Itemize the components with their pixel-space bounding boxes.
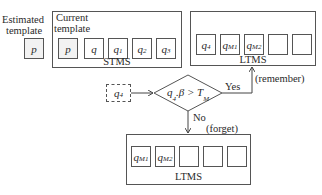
ltms-bottom-cell-2 [179, 146, 199, 167]
ltms-bottom-cell-1: qM2 [155, 146, 175, 167]
stms-caption: STMS [52, 56, 182, 67]
remember-label: (remember) [255, 73, 305, 84]
estimated-template-cell: p [24, 38, 44, 59]
ltms-top-cell-1: qM1 [220, 34, 240, 55]
current-template-label-2: template [54, 23, 90, 34]
ltms-top-cell-2: qM2 [244, 34, 264, 55]
ltms-top-cell-0: q4 [196, 34, 216, 55]
ltms-top-cell-4 [292, 34, 312, 55]
ltms-bottom-cell-3 [203, 146, 223, 167]
estimated-template-label-2: template [6, 25, 42, 36]
forget-label: (forget) [206, 123, 238, 134]
ltms-bottom-caption: LTMS [126, 171, 251, 182]
yes-label: Yes [225, 81, 240, 92]
ltms-top-caption: LTMS [190, 54, 316, 65]
ltms-top-cell-3 [268, 34, 288, 55]
current-template-label-1: Current [56, 12, 88, 23]
decision-condition: q4.β > TM [160, 86, 216, 101]
no-label: No [193, 112, 206, 123]
ltms-bottom-cell-4 [227, 146, 247, 167]
estimated-template-label-1: Estimated [2, 14, 44, 25]
cell-value: p [31, 43, 37, 55]
input-node-q4: q4 [106, 84, 131, 102]
ltms-bottom-cell-0: qM1 [131, 146, 151, 167]
